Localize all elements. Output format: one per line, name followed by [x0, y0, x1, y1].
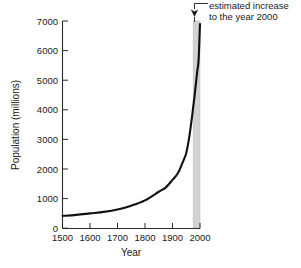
- x-tick-label: 1700: [107, 232, 128, 243]
- x-tick-label: 1500: [52, 232, 73, 243]
- annotation-line-1: estimated increase: [209, 0, 289, 11]
- x-tick-label: 1600: [79, 232, 100, 243]
- y-tick-label: 5000: [37, 75, 58, 86]
- x-axis-title: Year: [121, 247, 142, 258]
- y-tick-label: 3000: [37, 134, 58, 145]
- x-tick-label: 2000: [189, 232, 210, 243]
- annotation-leader: [191, 4, 208, 23]
- x-tick-label: 1900: [162, 232, 183, 243]
- x-tick-label: 1800: [134, 232, 155, 243]
- arrowhead-icon: [191, 9, 198, 17]
- x-axis-ticks: [63, 223, 201, 229]
- y-tick-label: 6000: [37, 45, 58, 56]
- cropped-caption: [0, 260, 301, 268]
- y-tick-label: 1000: [37, 193, 58, 204]
- chart-canvas: 7000 6000 5000 4000 3000 2000 1000 0 150…: [0, 0, 301, 268]
- y-tick-label: 2000: [37, 164, 58, 175]
- y-axis-tick-labels: 7000 6000 5000 4000 3000 2000 1000 0: [37, 16, 58, 234]
- population-curve: [63, 24, 201, 216]
- annotation-line-2: to the year 2000: [209, 11, 278, 22]
- y-axis-title: Population (millions): [10, 80, 21, 170]
- y-axis-ticks: [63, 21, 69, 228]
- y-tick-label: 4000: [37, 104, 58, 115]
- population-growth-figure: 7000 6000 5000 4000 3000 2000 1000 0 150…: [0, 0, 301, 268]
- x-axis-tick-labels: 1500 1600 1700 1800 1900 2000: [52, 232, 211, 243]
- y-tick-label: 7000: [37, 16, 58, 27]
